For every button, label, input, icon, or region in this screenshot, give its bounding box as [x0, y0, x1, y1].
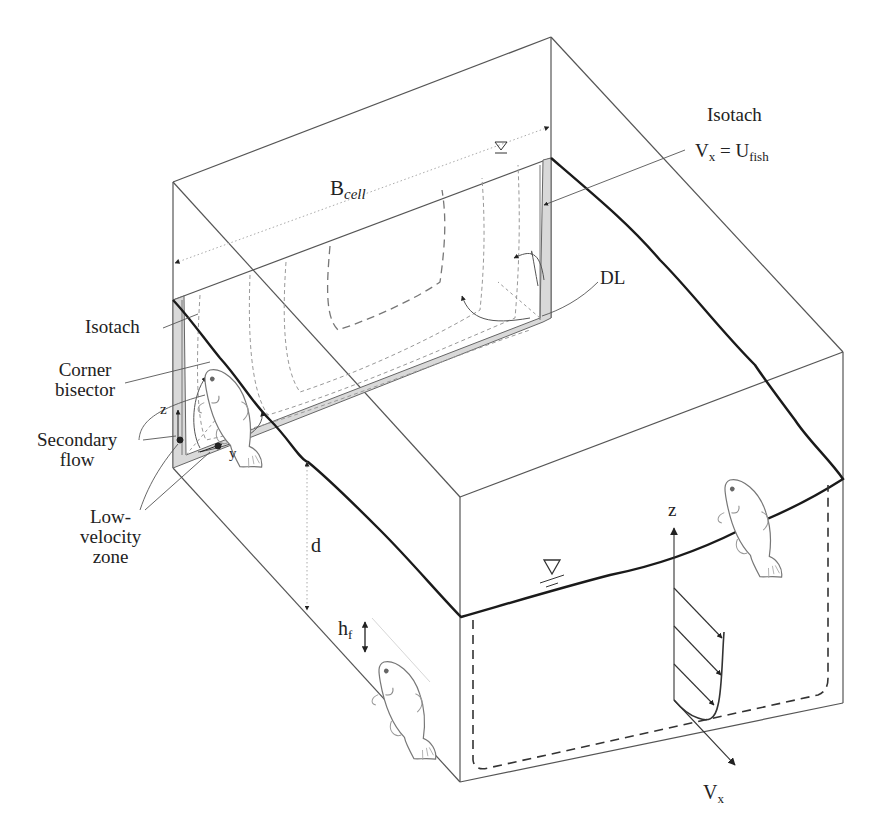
low-velocity-line2: velocity	[80, 527, 141, 547]
corner-bisector-line1: Corner	[55, 360, 115, 380]
vx-symbol: V	[695, 140, 709, 161]
isotach-left-label: Isotach	[85, 317, 140, 337]
hf-symbol: h	[338, 617, 348, 639]
fish-icon	[347, 656, 467, 769]
axis-z-right-label: z	[668, 500, 676, 520]
low-velocity-line3: zone	[80, 547, 141, 567]
fish-icon	[693, 474, 813, 587]
bcell-subscript: cell	[344, 186, 366, 202]
depth-label: d	[311, 535, 321, 556]
hf-subscript: f	[348, 627, 352, 642]
front-isotach	[473, 485, 828, 769]
secondary-flow-line1: Secondary	[37, 430, 117, 450]
axis-z-left-label: z	[160, 402, 167, 418]
low-velocity-zone-label: Low- velocity zone	[80, 507, 141, 567]
velocity-profile	[674, 528, 735, 765]
secondary-flow-label: Secondary flow	[37, 430, 117, 470]
water-level-symbol	[495, 142, 564, 587]
equals-u: = U	[715, 140, 749, 161]
isotach-top-label: Isotach	[707, 105, 762, 125]
axis-y-left-label: y	[229, 446, 237, 462]
vx-axis-subscript: x	[717, 791, 724, 806]
bcell-label: Bcell	[330, 177, 366, 203]
leader-lines	[125, 150, 685, 510]
vx-axis-symbol: V	[703, 781, 717, 803]
low-velocity-line1: Low-	[80, 507, 141, 527]
dl-label: DL	[600, 268, 625, 288]
corner-bisector-label: Corner bisector	[55, 360, 115, 400]
culvert-diagram: Isotach Vx = Ufish Bcell DL Isotach Corn…	[0, 0, 880, 829]
bcell-symbol: B	[330, 176, 344, 200]
corner-bisector-line2: bisector	[55, 380, 115, 400]
hf-label: hf	[338, 618, 352, 642]
ufish-subscript: fish	[749, 149, 769, 164]
vx-ufish-label: Vx = Ufish	[695, 141, 769, 164]
secondary-flow-line2: flow	[37, 450, 117, 470]
isotach-core	[328, 190, 445, 330]
isotach-contours	[198, 165, 530, 440]
axis-vx-label: Vx	[703, 782, 724, 806]
